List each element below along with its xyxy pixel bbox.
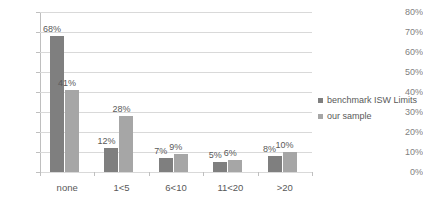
bar-value-label: 9% [161, 143, 191, 152]
legend-swatch-icon [318, 98, 323, 103]
legend-item-label: benchmark ISW Limits [327, 95, 417, 105]
x-axis-tick-mark [203, 172, 204, 176]
y-axis-tick-label: 10% [389, 148, 423, 157]
bar [213, 162, 227, 172]
bar [174, 154, 188, 172]
x-axis-tick-mark [94, 172, 95, 176]
bar-group: 5%6% [203, 12, 257, 172]
legend-item-label: our sample [327, 111, 372, 121]
bar [104, 148, 118, 172]
bar-value-label: 41% [52, 79, 82, 88]
x-axis-tick-mark [312, 172, 313, 176]
bar-chart: 0%10%20%30%40%50%60%70%80% 68%41%12%28%7… [0, 0, 423, 211]
bar-value-label: 12% [91, 137, 121, 146]
y-axis-tick-label: 20% [389, 128, 423, 137]
bar-value-label: 28% [106, 105, 136, 114]
bar [283, 152, 297, 172]
y-axis-tick-label: 70% [389, 28, 423, 37]
x-axis-tick-label: >20 [255, 182, 315, 193]
x-axis-tick-label: none [37, 182, 97, 193]
x-axis-tick-mark [40, 172, 41, 176]
bar [268, 156, 282, 172]
bar-value-label: 68% [37, 25, 67, 34]
gridline [40, 172, 312, 173]
legend-item[interactable]: benchmark ISW Limits [318, 92, 422, 108]
legend-item[interactable]: our sample [318, 108, 422, 124]
bar-group: 68%41% [40, 12, 94, 172]
x-axis-tick-label: 1<5 [92, 182, 152, 193]
chart-legend: benchmark ISW Limitsour sample [318, 92, 422, 124]
y-axis-tick-label: 80% [389, 8, 423, 17]
y-axis-tick-label: 50% [389, 68, 423, 77]
bar [65, 90, 79, 172]
bar-value-label: 10% [270, 141, 300, 150]
bar-value-label: 6% [215, 149, 245, 158]
x-axis-tick-mark [149, 172, 150, 176]
bar [159, 158, 173, 172]
y-axis-tick-label: 0% [389, 168, 423, 177]
x-axis-tick-label: 6<10 [146, 182, 206, 193]
bar-group: 12%28% [94, 12, 148, 172]
x-axis-tick-mark [258, 172, 259, 176]
plot-area: 68%41%12%28%7%9%5%6%8%10% [40, 12, 312, 172]
y-axis-tick-label: 60% [389, 48, 423, 57]
bar-group: 8%10% [258, 12, 312, 172]
legend-swatch-icon [318, 114, 323, 119]
x-axis-tick-label: 11<20 [200, 182, 260, 193]
bar [228, 160, 242, 172]
bar-group: 7%9% [149, 12, 203, 172]
bar [119, 116, 133, 172]
bar [50, 36, 64, 172]
